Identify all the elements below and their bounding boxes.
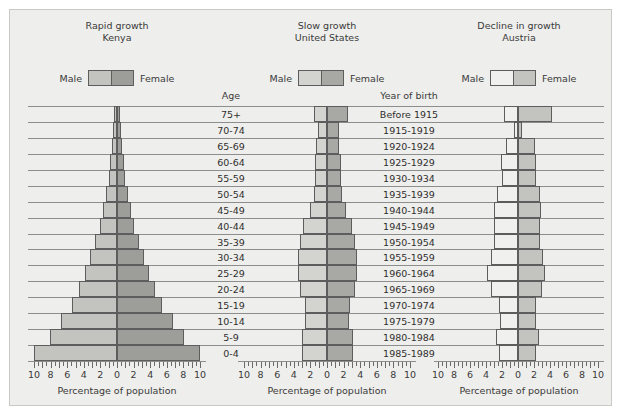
axis-tick xyxy=(586,362,587,366)
axis-tick-label: 10 xyxy=(194,369,206,380)
axis-tick xyxy=(134,362,135,368)
axis-tick xyxy=(369,362,370,368)
axis-tick xyxy=(381,362,382,366)
bar-female xyxy=(117,218,134,234)
bar-male xyxy=(497,186,518,202)
bar-female xyxy=(518,170,536,186)
axis-tick-label: 0 xyxy=(515,369,521,380)
axis-tick xyxy=(183,362,184,368)
bar-female xyxy=(518,329,539,345)
legend-male-label: Male xyxy=(456,73,491,84)
x-axis-tick-labels-austria: 1086420246810 xyxy=(434,369,604,381)
label-text: 45-49 xyxy=(217,205,245,216)
axis-tick xyxy=(490,362,491,366)
bar-male xyxy=(501,154,518,170)
axis-tick-label: 2 xyxy=(131,369,137,380)
legend-swatch-male xyxy=(299,71,322,85)
axis-tick xyxy=(200,362,201,368)
bar-male xyxy=(106,186,117,202)
label-text: 1970-1974 xyxy=(383,300,435,311)
x-axis-title-austria: Percentage of population xyxy=(434,385,604,396)
bar-female xyxy=(327,202,346,218)
bar-female xyxy=(327,313,349,329)
axis-tick xyxy=(546,362,547,366)
bar-male xyxy=(315,154,327,170)
bar-male xyxy=(494,234,518,250)
year-of-birth-label: 1945-1949 xyxy=(372,218,446,234)
axis-tick xyxy=(319,362,320,368)
axis-tick-label: 4 xyxy=(483,369,489,380)
axis-tick xyxy=(80,362,81,366)
bar-female xyxy=(327,234,355,250)
bar-female xyxy=(327,170,341,186)
bar-female xyxy=(117,249,144,265)
bar-female xyxy=(518,281,542,297)
legend-kenya: MaleFemale xyxy=(28,70,206,86)
label-text: 1965-1969 xyxy=(383,284,435,295)
legend-swatch-female xyxy=(322,71,344,85)
bar-male xyxy=(50,329,117,345)
bar-male xyxy=(314,106,327,122)
bar-male xyxy=(315,170,327,186)
axis-tick xyxy=(294,362,295,368)
year-of-birth-label: 1925-1929 xyxy=(372,154,446,170)
axis-tick xyxy=(570,362,571,366)
bar-female xyxy=(518,313,536,329)
axis-tick xyxy=(252,362,253,368)
label-text: 1980-1984 xyxy=(383,332,435,343)
axis-tick-label: 8 xyxy=(451,369,457,380)
label-text: 1945-1949 xyxy=(383,221,435,232)
axis-tick xyxy=(323,362,324,366)
axis-tick-label: 6 xyxy=(274,369,280,380)
label-text: 65-69 xyxy=(217,141,245,152)
bar-female xyxy=(327,218,352,234)
axis-tick xyxy=(377,362,378,368)
axis-tick xyxy=(598,362,599,368)
bar-female xyxy=(518,297,536,313)
axis-tick xyxy=(348,362,349,366)
axis-tick xyxy=(117,362,118,368)
axis-tick xyxy=(192,362,193,368)
axis-tick xyxy=(526,362,527,368)
bar-male xyxy=(496,329,518,345)
year-of-birth-label: 1935-1939 xyxy=(372,186,446,202)
axis-tick xyxy=(163,362,164,366)
label-text: 1940-1944 xyxy=(383,205,435,216)
axis-tick xyxy=(76,362,77,368)
axis-tick xyxy=(442,362,443,366)
bar-male xyxy=(500,313,518,329)
axis-tick-label: 8 xyxy=(579,369,585,380)
label-text: Before 1915 xyxy=(380,109,438,120)
axis-tick xyxy=(244,362,245,368)
panel-title-kenya: Rapid growth Kenya xyxy=(28,20,206,43)
axis-tick xyxy=(514,362,515,366)
axis-tick xyxy=(389,362,390,366)
bar-male xyxy=(103,202,117,218)
age-group-label: 55-59 xyxy=(200,170,262,186)
bar-male xyxy=(61,313,117,329)
bar-male xyxy=(298,265,327,281)
axis-tick xyxy=(438,362,439,368)
axis-tick xyxy=(494,362,495,368)
bar-male xyxy=(494,218,518,234)
bar-male xyxy=(302,329,327,345)
axis-tick-label: 6 xyxy=(563,369,569,380)
label-text: 1925-1929 xyxy=(383,157,435,168)
population-pyramid-figure: Rapid growth KenyaMaleFemale108642024681… xyxy=(9,9,612,406)
label-text: 25-29 xyxy=(217,268,245,279)
axis-tick xyxy=(306,362,307,366)
axis-tick xyxy=(506,362,507,366)
center-axis-line xyxy=(117,106,118,361)
label-text: 50-54 xyxy=(217,189,245,200)
bar-female xyxy=(518,234,540,250)
axis-tick xyxy=(121,362,122,366)
legend-female-label: Female xyxy=(536,73,582,84)
axis-tick xyxy=(159,362,160,368)
axis-tick xyxy=(486,362,487,368)
bar-female xyxy=(327,154,341,170)
year-of-birth-label: 1955-1959 xyxy=(372,249,446,265)
label-text: 70-74 xyxy=(217,125,245,136)
x-axis-ticks-austria xyxy=(434,362,604,368)
bar-female xyxy=(117,234,139,250)
label-text: 0-4 xyxy=(223,348,239,359)
